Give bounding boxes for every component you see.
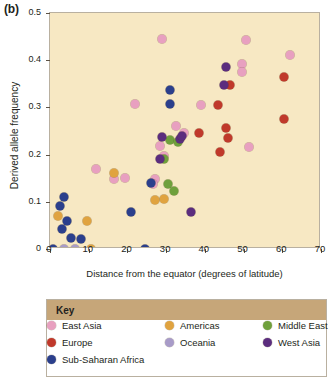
data-point bbox=[150, 195, 159, 204]
data-point bbox=[158, 35, 167, 44]
data-point bbox=[92, 164, 101, 173]
data-point bbox=[241, 35, 250, 44]
data-point bbox=[121, 174, 130, 183]
data-point bbox=[280, 114, 289, 123]
data-point bbox=[55, 202, 64, 211]
legend-swatch-icon bbox=[165, 338, 174, 347]
y-axis-tick-label: 0.4 bbox=[28, 54, 41, 64]
legend-item-label: Americas bbox=[180, 320, 220, 331]
x-axis-tick-label: 0 bbox=[46, 243, 51, 254]
data-point bbox=[160, 195, 169, 204]
data-point bbox=[59, 245, 68, 248]
legend-swatch-icon bbox=[165, 321, 174, 330]
data-point bbox=[237, 68, 246, 77]
data-point bbox=[59, 192, 68, 201]
data-point bbox=[82, 216, 91, 225]
data-point bbox=[146, 178, 155, 187]
y-axis-tick bbox=[46, 60, 50, 61]
data-point bbox=[169, 187, 178, 196]
legend-item-label: Europe bbox=[62, 337, 93, 348]
data-point bbox=[109, 169, 118, 178]
plot-surface bbox=[50, 13, 319, 247]
legend-item-label: Sub-Saharan Africa bbox=[62, 354, 144, 365]
x-axis-tick-label: 20 bbox=[121, 243, 132, 254]
x-axis-tick-label: 10 bbox=[82, 243, 93, 254]
y-axis-tick bbox=[46, 155, 50, 156]
y-axis-tick-label: 0.3 bbox=[28, 101, 41, 111]
y-axis-title: Derived allele frequency bbox=[9, 56, 20, 216]
x-axis-tick-label: 60 bbox=[276, 243, 287, 254]
legend-item[interactable]: Middle East bbox=[263, 320, 328, 331]
data-point bbox=[67, 234, 76, 243]
legend-item[interactable]: Sub-Saharan Africa bbox=[47, 354, 144, 365]
legend-item-label: Oceania bbox=[180, 337, 215, 348]
y-axis-tick bbox=[46, 202, 50, 203]
data-point bbox=[237, 59, 246, 68]
data-point bbox=[245, 142, 254, 151]
data-point bbox=[131, 100, 140, 109]
y-axis-tick-label: 0.5 bbox=[28, 7, 41, 17]
legend-item-label: West Asia bbox=[278, 337, 320, 348]
x-axis-title: Distance from the equator (degrees of la… bbox=[49, 268, 320, 279]
legend-header: Key bbox=[47, 300, 326, 320]
y-axis-tick-label: 0 bbox=[36, 243, 41, 253]
legend-item-label: Middle East bbox=[278, 320, 328, 331]
data-point bbox=[57, 225, 66, 234]
legend-item-label: East Asia bbox=[62, 320, 102, 331]
y-axis-tick-labels: 00.10.20.30.40.5 bbox=[0, 12, 47, 248]
data-point bbox=[156, 142, 165, 151]
data-point bbox=[280, 72, 289, 81]
legend-swatch-icon bbox=[263, 321, 272, 330]
plot-area bbox=[49, 12, 320, 248]
data-point bbox=[220, 81, 229, 90]
legend-item[interactable]: Oceania bbox=[165, 337, 215, 348]
x-axis-tick-label: 40 bbox=[199, 243, 210, 254]
data-point bbox=[177, 131, 186, 140]
y-axis-tick bbox=[46, 13, 50, 14]
data-point bbox=[216, 148, 225, 157]
data-point bbox=[166, 86, 175, 95]
data-point bbox=[63, 216, 72, 225]
data-point bbox=[187, 208, 196, 217]
data-point bbox=[171, 121, 180, 130]
data-point bbox=[127, 208, 136, 217]
y-axis-tick-label: 0.2 bbox=[28, 149, 41, 159]
data-point bbox=[214, 101, 223, 110]
data-point bbox=[71, 245, 80, 248]
y-axis-tick bbox=[46, 107, 50, 108]
legend-swatch-icon bbox=[47, 355, 56, 364]
legend: Key East AsiaEuropeSub-Saharan AfricaAme… bbox=[46, 299, 327, 377]
legend-swatch-icon bbox=[47, 338, 56, 347]
data-point bbox=[222, 124, 231, 133]
data-point bbox=[140, 245, 149, 248]
data-point bbox=[196, 101, 205, 110]
data-point bbox=[222, 62, 231, 71]
data-point bbox=[166, 100, 175, 109]
legend-item[interactable]: West Asia bbox=[263, 337, 320, 348]
y-axis-tick-label: 0.1 bbox=[28, 196, 41, 206]
legend-item[interactable]: Americas bbox=[165, 320, 220, 331]
legend-swatch-icon bbox=[47, 321, 56, 330]
legend-body: East AsiaEuropeSub-Saharan AfricaAmerica… bbox=[47, 320, 326, 376]
data-point bbox=[76, 234, 85, 243]
data-point bbox=[156, 155, 165, 164]
legend-title: Key bbox=[56, 305, 74, 316]
x-axis-tick-label: 50 bbox=[237, 243, 248, 254]
data-point bbox=[158, 133, 167, 142]
data-point bbox=[224, 133, 233, 142]
x-axis-tick-label: 70 bbox=[315, 243, 326, 254]
legend-item[interactable]: East Asia bbox=[47, 320, 102, 331]
scatter-figure: (b) 00.10.20.30.40.5 Derived allele freq… bbox=[0, 0, 333, 381]
legend-item[interactable]: Europe bbox=[47, 337, 93, 348]
data-point bbox=[195, 128, 204, 137]
data-point bbox=[53, 212, 62, 221]
legend-swatch-icon bbox=[263, 338, 272, 347]
x-axis-tick-label: 30 bbox=[160, 243, 171, 254]
data-point bbox=[286, 51, 295, 60]
